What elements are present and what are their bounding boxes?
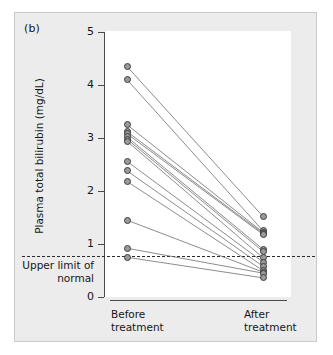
figure-panel-b: (b) Plasma total bilirubin (mg/dL) 01234… — [0, 0, 333, 355]
y-axis-tick-label: 5 — [64, 26, 94, 37]
y-axis-tick-label: 4 — [64, 79, 94, 90]
y-axis-title: Plasma total bilirubin (mg/dL) — [33, 51, 45, 261]
data-point-before — [124, 178, 131, 185]
reference-line-upper-limit-of-normal — [22, 256, 315, 257]
data-point-before — [124, 76, 131, 83]
data-point-before — [124, 245, 131, 252]
data-point-before — [124, 158, 131, 165]
x-axis-label-before: Before treatment — [111, 308, 164, 333]
data-point-before — [124, 167, 131, 174]
y-axis-tick — [98, 191, 104, 192]
data-point-after — [260, 231, 267, 238]
y-axis-tick — [98, 244, 104, 245]
data-point-before — [124, 63, 131, 70]
data-point-before — [124, 138, 131, 145]
y-axis-tick-label: 2 — [64, 185, 94, 196]
x-axis-line — [110, 300, 287, 301]
data-point-before — [124, 254, 131, 261]
data-point-after — [260, 274, 267, 281]
data-point-before — [124, 217, 131, 224]
reference-line-label: Upper limit of normal — [16, 259, 94, 285]
panel-label: (b) — [24, 22, 40, 35]
y-axis-tick-label: 3 — [64, 132, 94, 143]
y-axis-tick-label: 0 — [64, 291, 94, 302]
y-axis-tick — [98, 138, 104, 139]
y-axis-tick — [98, 297, 104, 298]
y-axis-tick — [98, 32, 104, 33]
y-axis-line — [104, 32, 105, 297]
y-axis-tick-label: 1 — [64, 238, 94, 249]
data-point-after — [260, 213, 267, 220]
x-axis-label-after: After treatment — [244, 308, 297, 333]
y-axis-tick — [98, 85, 104, 86]
